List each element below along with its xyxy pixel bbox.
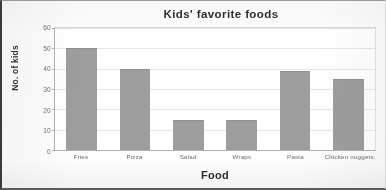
x-axis-tick-label: Pizza [108,153,162,161]
y-axis-tick-labels: 0102030405060 [29,27,51,151]
x-axis-tick-label: Pasta [269,153,323,161]
chart-figure: Kids' favorite foods No. of kids 0102030… [0,0,386,190]
y-axis-tickmark [52,150,55,151]
bar-slot [268,28,321,150]
x-axis-tick-label: Salad [161,153,215,161]
y-axis-tick-label: 60 [29,24,51,31]
bar-slot [322,28,375,150]
y-axis-tick-label: 20 [29,106,51,113]
bar[interactable] [333,79,364,150]
bar[interactable] [226,120,257,151]
y-axis-tick-label: 40 [29,65,51,72]
bar-series [55,28,375,150]
y-axis-tick-label: 50 [29,44,51,51]
x-axis-tick-label: Wraps [215,153,269,161]
bar-slot [215,28,268,150]
bar-slot [108,28,161,150]
y-axis-tick-label: 10 [29,127,51,134]
y-axis-tick-label: 30 [29,86,51,93]
bar[interactable] [280,71,311,150]
x-axis-tick-labels: FriesPizzaSaladWrapsPastaChicken nuggets [54,153,376,161]
x-axis-title: Food [54,169,376,181]
y-axis-tick-label: 0 [29,148,51,155]
plot-area [54,27,376,151]
bar[interactable] [120,69,151,150]
bar[interactable] [173,120,204,151]
chart-title: Kids' favorite foods [64,8,378,20]
y-axis-title: No. of kids [10,33,20,103]
bar-slot [55,28,108,150]
x-axis-tick-label: Chicken nuggets [322,153,376,161]
x-axis-tick-label: Fries [54,153,108,161]
bar-slot [162,28,215,150]
bar[interactable] [66,48,97,150]
